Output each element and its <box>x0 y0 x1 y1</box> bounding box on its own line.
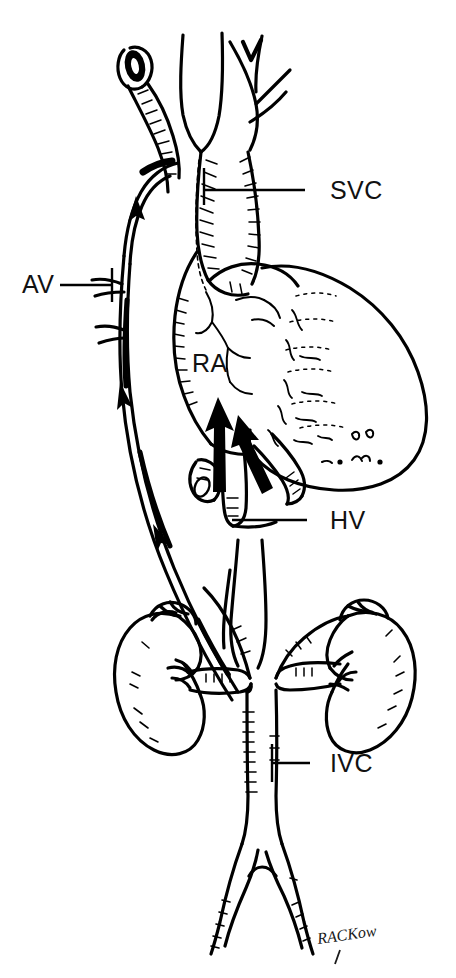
label-svc: SVC <box>330 176 383 204</box>
label-ra: RA <box>192 349 228 377</box>
label-av: AV <box>22 270 54 298</box>
label-hv: HV <box>330 506 366 534</box>
venous-anatomy-illustration: SVC AV RA HV IVC RACKow <box>0 0 456 978</box>
label-ivc: IVC <box>330 749 373 777</box>
anatomy-figure: SVC AV RA HV IVC RACKow <box>0 0 456 978</box>
figure-background <box>0 0 456 978</box>
